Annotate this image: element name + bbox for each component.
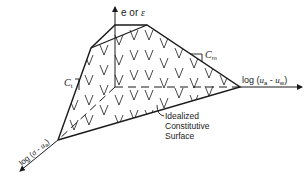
horizontal-axis-label: log (ua - uw) (242, 75, 287, 86)
surface-label: Idealized Constitutive Surface (165, 111, 209, 141)
diagram-canvas: e or ε Ct Cm log (ua - uw) log (σ - ua) … (0, 0, 308, 180)
vertical-axis-label: e or ε (121, 7, 145, 18)
cm-label: Cm (205, 49, 217, 61)
constitutive-surface-diagram: e or ε Ct Cm log (ua - uw) log (σ - ua) (0, 0, 308, 180)
ct-label: Ct (64, 77, 73, 89)
diagonal-axis-label: log (σ - ua) (18, 137, 52, 168)
surface-label-line3: Surface (165, 131, 209, 141)
surface-label-line1: Idealized (165, 111, 209, 121)
surface-label-line2: Constitutive (165, 121, 209, 131)
surface-outline (58, 25, 240, 140)
